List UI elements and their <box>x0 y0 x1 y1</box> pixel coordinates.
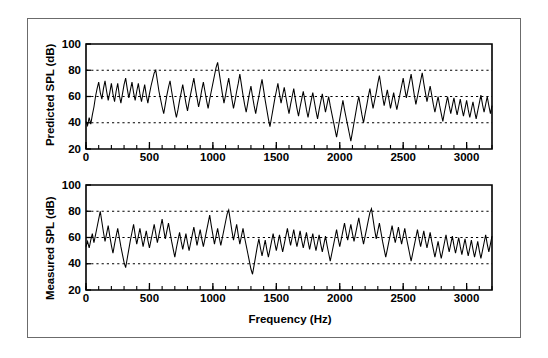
y-tick-label: 60 <box>68 90 81 102</box>
y-tick-label: 40 <box>68 116 81 128</box>
y-tick-label: 40 <box>68 257 81 269</box>
y-tick-label: 60 <box>68 231 81 243</box>
panel-measured-spl: 10080604020050010001500200025003000 <box>0 140 548 358</box>
x-tick-label: 1000 <box>200 292 226 304</box>
x-tick-label: 2500 <box>390 292 416 304</box>
x-tick-label: 500 <box>140 292 159 304</box>
plot-measured-spl: 10080604020050010001500200025003000 <box>0 140 548 358</box>
y-tick-label: 80 <box>68 64 81 76</box>
y-tick-label: 80 <box>68 205 81 217</box>
x-tick-label: 0 <box>83 292 89 304</box>
x-axis-label: Frequency (Hz) <box>0 313 548 325</box>
y-tick-label: 20 <box>68 284 81 296</box>
data-trace <box>86 62 492 141</box>
x-tick-label: 3000 <box>454 292 480 304</box>
y-tick-label: 100 <box>62 179 81 191</box>
y-axis-label-measured: Measured SPL (dB) <box>44 196 56 300</box>
x-tick-label: 2000 <box>327 292 353 304</box>
x-tick-label: 1500 <box>264 292 290 304</box>
data-trace <box>86 209 492 275</box>
x-axis-label-text: Frequency (Hz) <box>248 313 331 325</box>
figure-root: Predicted SPL (dB) 100806040200500100015… <box>0 0 548 358</box>
y-tick-label: 100 <box>62 38 81 50</box>
